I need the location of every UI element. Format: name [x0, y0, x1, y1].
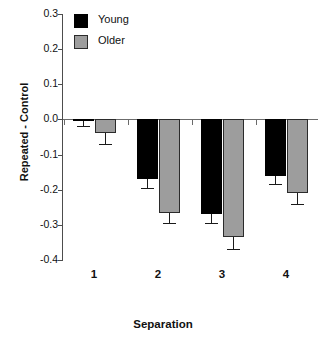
y-axis-tick: [58, 260, 63, 261]
legend-label-older: Older: [98, 34, 125, 46]
y-axis-tick: [58, 119, 63, 120]
y-axis-tick-label: 0.2: [18, 42, 58, 54]
y-axis-tick-label: -0.3: [18, 218, 58, 230]
x-axis-tick-label: 2: [138, 268, 178, 280]
legend-label-young: Young: [98, 13, 129, 25]
y-axis-tick-label: -0.4: [18, 253, 58, 265]
x-axis-tick: [192, 119, 193, 125]
y-axis-tick: [58, 84, 63, 85]
error-bar-cap: [141, 188, 154, 189]
error-bar-stem: [233, 237, 234, 249]
y-axis-tick: [58, 14, 63, 15]
y-axis-tick-label: -0.1: [18, 148, 58, 160]
y-axis-tick: [58, 190, 63, 191]
bar-young-sep-3: [201, 119, 222, 214]
error-bar-cap: [291, 204, 304, 205]
error-bar-cap: [163, 223, 176, 224]
plot-area: 1234: [62, 14, 318, 260]
x-axis-title: Separation: [0, 318, 326, 330]
y-axis-line: [62, 14, 63, 260]
y-axis-tick: [58, 155, 63, 156]
y-axis-tick-label: 0.0: [18, 112, 58, 124]
bar-chart-figure: Repeated - Control 1234 0.30.20.10.0-0.1…: [0, 0, 326, 343]
error-bar-stem: [147, 179, 148, 188]
error-bar-stem: [169, 213, 170, 224]
bar-older-sep-4: [287, 119, 308, 193]
error-bar-cap: [227, 249, 240, 250]
y-axis-tick-label: 0.1: [18, 77, 58, 89]
y-axis-tick: [58, 225, 63, 226]
error-bar-cap: [99, 144, 112, 145]
error-bar-stem: [211, 214, 212, 223]
bar-young-sep-2: [137, 119, 158, 179]
x-axis-tick: [256, 119, 257, 125]
bar-older-sep-3: [223, 119, 244, 237]
y-axis-tick-label: -0.2: [18, 183, 58, 195]
legend-swatch-older-icon: [74, 35, 88, 49]
x-axis-tick-label: 3: [202, 268, 242, 280]
bar-older-sep-2: [159, 119, 180, 212]
x-axis-tick-label: 1: [74, 268, 114, 280]
x-axis-tick: [128, 119, 129, 125]
x-axis-tick: [64, 119, 65, 125]
legend-swatch-young-icon: [74, 14, 88, 28]
error-bar-cap: [205, 223, 218, 224]
error-bar-cap: [77, 126, 90, 127]
bar-older-sep-1: [95, 119, 116, 133]
y-axis-tick-label: 0.3: [18, 7, 58, 19]
error-bar-cap: [269, 184, 282, 185]
y-axis-tick: [58, 49, 63, 50]
x-axis-tick-label: 4: [266, 268, 306, 280]
bar-young-sep-4: [265, 119, 286, 175]
y-axis-title: Repeated - Control: [18, 32, 30, 232]
error-bar-stem: [297, 193, 298, 204]
error-bar-stem: [105, 133, 106, 144]
error-bar-stem: [275, 176, 276, 185]
